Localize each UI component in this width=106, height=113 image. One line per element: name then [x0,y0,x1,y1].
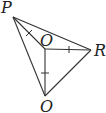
label-o: O [40,31,53,50]
label-bottom: O [40,97,53,113]
label-r: R [93,41,106,60]
segment-r-bottom [45,50,91,96]
label-p: P [0,0,12,17]
geometry-diagram: P O R O [0,0,106,113]
